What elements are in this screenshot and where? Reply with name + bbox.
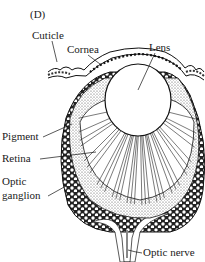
- label-lens: Lens: [149, 41, 170, 53]
- label-pigment: Pigment: [2, 130, 39, 142]
- label-cornea: Cornea: [67, 43, 99, 55]
- lens-shape: [105, 64, 171, 136]
- label-optic-nerve: Optic nerve: [143, 246, 195, 258]
- label-optic-ganglion-1: Optic: [2, 175, 26, 187]
- label-optic-ganglion-2: ganglion: [2, 189, 41, 201]
- panel-label: (D): [30, 8, 45, 20]
- label-retina: Retina: [2, 152, 31, 164]
- label-cuticle: Cuticle: [32, 29, 64, 41]
